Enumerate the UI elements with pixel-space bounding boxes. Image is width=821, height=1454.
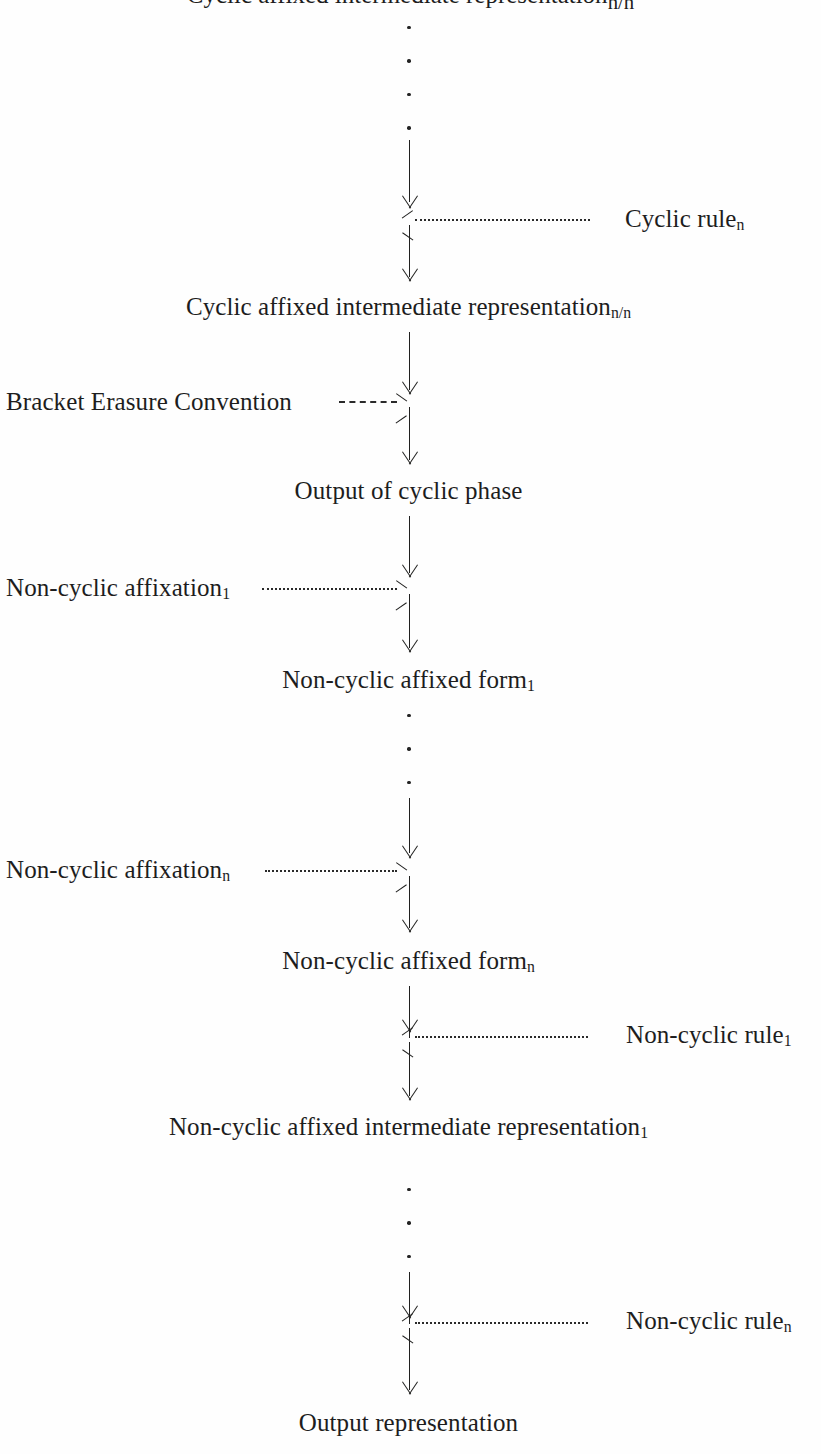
side-label-text: Non-cyclic affixation	[6, 574, 222, 601]
node-subscript: n/n	[611, 304, 631, 321]
arrow-down-icon	[401, 452, 418, 465]
connector-line	[409, 1328, 410, 1390]
clipped-top-node-subscript: n/n	[608, 0, 635, 14]
node-non-cyclic-affixed-intermediate-representation-1: Non-cyclic affixed intermediate represen…	[0, 1114, 819, 1141]
node-output-representation: Output representation	[0, 1410, 819, 1435]
side-label-non-cyclic-affixation-n: Non-cyclic affixationn	[6, 857, 230, 884]
ellipsis-middle	[404, 714, 414, 784]
node-label: Output of cyclic phase	[295, 477, 523, 504]
clipped-top-node: Cyclic affixed intermediate representati…	[0, 0, 821, 15]
connector-line	[409, 798, 410, 853]
arrow-right-icon	[396, 862, 407, 879]
side-label-subscript: n	[784, 1318, 792, 1335]
side-label-subscript: 1	[784, 1032, 792, 1049]
side-label-non-cyclic-rule-n: Non-cyclic rulen	[626, 1308, 792, 1335]
arrow-left-icon	[402, 1027, 413, 1044]
arrow-left-icon	[402, 210, 413, 227]
dotted-connector	[415, 1322, 588, 1324]
dotted-connector	[262, 588, 397, 590]
node-label: Non-cyclic affixed form	[282, 666, 527, 693]
side-label-non-cyclic-affixation-1: Non-cyclic affixation1	[6, 575, 230, 602]
arrow-right-icon	[396, 580, 407, 597]
arrow-down-icon	[401, 640, 418, 653]
side-label-cyclic-rule-n: Cyclic rulen	[625, 206, 744, 233]
arrow-right-icon	[396, 393, 407, 410]
node-label: Output representation	[299, 1409, 518, 1436]
arrow-down-icon	[401, 846, 418, 859]
side-label-subscript: n	[736, 216, 744, 233]
arrow-down-icon	[401, 269, 418, 282]
arrow-down-icon	[401, 196, 418, 209]
side-label-subscript: 1	[222, 585, 230, 602]
diagram-canvas: Cyclic affixed intermediate representati…	[0, 0, 821, 1454]
dotted-connector	[265, 870, 397, 872]
connector-line	[409, 140, 410, 202]
side-label-text: Bracket Erasure Convention	[6, 388, 292, 415]
dashed-connector	[339, 401, 397, 403]
side-label-subscript: n	[222, 867, 230, 884]
node-label: Cyclic affixed intermediate representati…	[186, 293, 611, 320]
dotted-connector	[415, 1036, 588, 1038]
node-label: Non-cyclic affixed form	[282, 947, 527, 974]
ellipsis-top	[404, 26, 414, 130]
arrow-down-icon	[401, 1088, 418, 1101]
node-subscript: n	[527, 958, 535, 975]
side-label-text: Non-cyclic rule	[626, 1307, 784, 1334]
dotted-connector	[415, 219, 590, 221]
arrow-down-icon	[401, 1382, 418, 1395]
side-label-text: Non-cyclic rule	[626, 1021, 784, 1048]
side-label-bracket-erasure-convention: Bracket Erasure Convention	[6, 389, 292, 414]
side-label-non-cyclic-rule-1: Non-cyclic rule1	[626, 1022, 792, 1049]
side-label-text: Non-cyclic affixation	[6, 856, 222, 883]
node-subscript: 1	[527, 677, 535, 694]
arrow-down-icon	[401, 920, 418, 933]
node-non-cyclic-affixed-form-n: Non-cyclic affixed formn	[0, 948, 819, 975]
arrow-left-icon	[402, 1313, 413, 1330]
node-cyclic-affixed-intermediate-representation: Cyclic affixed intermediate representati…	[0, 294, 819, 321]
arrow-down-icon	[401, 565, 418, 578]
clipped-top-node-label: Cyclic affixed intermediate representati…	[187, 0, 608, 8]
side-label-text: Cyclic rule	[625, 205, 736, 232]
ellipsis-bottom	[404, 1188, 414, 1258]
node-output-of-cyclic-phase: Output of cyclic phase	[0, 478, 819, 503]
node-label: Non-cyclic affixed intermediate represen…	[169, 1113, 640, 1140]
node-subscript: 1	[640, 1124, 648, 1141]
node-non-cyclic-affixed-form-1: Non-cyclic affixed form1	[0, 667, 819, 694]
